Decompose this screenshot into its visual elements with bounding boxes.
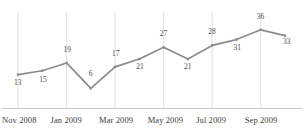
data-point-marker — [162, 46, 164, 48]
line-chart: 13151961721272128313633 Nov 2008Jan 2009… — [0, 0, 304, 133]
data-point-label: 21 — [184, 62, 192, 71]
data-point-marker — [187, 58, 189, 60]
data-point-label: 27 — [160, 29, 168, 38]
data-point-label: 19 — [64, 45, 72, 54]
data-point-label: 21 — [136, 62, 144, 71]
data-point-marker — [211, 44, 213, 46]
x-axis-tick-label: May 2009 — [148, 115, 184, 125]
data-point-marker — [260, 29, 262, 31]
data-point-marker — [17, 73, 19, 75]
data-point-label: 15 — [39, 75, 47, 84]
data-point-label: 28 — [208, 27, 216, 36]
data-point-label: 13 — [14, 78, 22, 87]
x-axis-tick-label: Sep 2009 — [245, 115, 278, 125]
data-point-label: 17 — [112, 49, 120, 58]
data-point-marker — [41, 70, 43, 72]
data-point-label: 33 — [283, 37, 291, 46]
data-point-label: 6 — [89, 69, 93, 78]
data-point-marker — [90, 87, 92, 89]
data-point-marker — [114, 66, 116, 68]
data-point-marker — [65, 62, 67, 64]
x-axis-tick-label: Jul 2009 — [196, 115, 226, 125]
x-axis-tick-label: Mar 2009 — [99, 115, 133, 125]
data-point-label: 36 — [257, 12, 265, 21]
x-axis-tick-label: Jan 2009 — [51, 115, 82, 125]
data-point-marker — [235, 38, 237, 40]
x-axis-tick-label: Nov 2008 — [2, 115, 37, 125]
series-line — [18, 30, 285, 89]
data-point-label: 31 — [233, 43, 241, 52]
data-point-marker — [138, 58, 140, 60]
